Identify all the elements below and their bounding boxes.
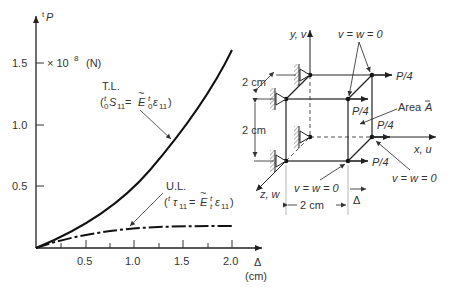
svg-text:): ) — [168, 96, 172, 108]
x-axis-units: (cm) — [245, 270, 267, 282]
dim-height: 2 cm — [242, 124, 266, 136]
svg-text:P/4: P/4 — [372, 156, 389, 168]
svg-text:~: ~ — [200, 187, 206, 199]
svg-text:=: = — [125, 96, 131, 108]
ul-pointer — [130, 193, 163, 226]
svg-text:ε: ε — [153, 96, 158, 108]
x-axis-label: Δ — [254, 256, 262, 268]
y-units: × 10 — [47, 57, 69, 69]
x-tick-0.5: 0.5 — [77, 255, 92, 267]
area-symbol: A — [424, 101, 432, 113]
bc-bottom-left-label: v = w = 0 — [294, 182, 340, 194]
y-units-n: (N) — [86, 57, 101, 69]
y-units-exp: 8 — [74, 54, 79, 63]
x-tick-1.5: 1.5 — [174, 255, 189, 267]
svg-text:t: t — [168, 194, 171, 203]
svg-text:P/4: P/4 — [352, 105, 369, 117]
y-tick-1.5: 1.5 — [12, 57, 27, 69]
tl-label: T.L. — [102, 80, 120, 92]
svg-text:ε: ε — [215, 196, 220, 208]
y-axis-label-diagram: y, v — [289, 28, 308, 40]
svg-text:11: 11 — [221, 202, 230, 211]
svg-text:11: 11 — [179, 202, 188, 211]
svg-text:t: t — [210, 202, 213, 211]
dim-width: 2 cm — [300, 199, 324, 211]
x-tick-2.0: 2.0 — [223, 255, 238, 267]
cube-diagram: y, v x, u z, w — [242, 28, 438, 215]
svg-text:P/4: P/4 — [396, 70, 413, 82]
svg-text:~: ~ — [138, 87, 144, 99]
dim-depth: 2 cm — [242, 76, 266, 88]
x-axis-label-diagram: x, u — [413, 143, 432, 155]
x-tick-1.0: 1.0 — [125, 255, 140, 267]
load-displacement-plot: 1.5 1.0 0.5 t P × 10 8 (N) 0.5 1.0 1.5 2… — [12, 10, 267, 282]
bc-bottom-right-label: v = w = 0 — [392, 172, 438, 184]
y-tick-0.5: 0.5 — [12, 180, 27, 192]
svg-text:P/4: P/4 — [377, 119, 394, 131]
tl-curve — [36, 50, 232, 248]
disp-label: Δ — [353, 194, 361, 206]
svg-text:τ: τ — [173, 196, 178, 208]
y-axis-label: P — [46, 11, 54, 23]
tl-pointer — [140, 110, 171, 139]
ul-label: U.L. — [166, 180, 186, 192]
load-labels: P/4 P/4 P/4 P/4 — [352, 70, 413, 168]
svg-text:=: = — [189, 196, 195, 208]
area-label: Area — [398, 101, 422, 113]
z-axis-label-diagram: z, w — [259, 188, 281, 200]
svg-text:11: 11 — [159, 102, 168, 111]
y-ticks — [36, 63, 44, 186]
load-arrows — [348, 75, 392, 161]
svg-text:): ) — [230, 196, 234, 208]
bc-top-label: v = w = 0 — [338, 28, 384, 40]
y-axis-label-sup: t — [42, 10, 45, 19]
svg-text:S: S — [109, 96, 117, 108]
y-tick-1.0: 1.0 — [12, 119, 27, 131]
x-ticks — [61, 240, 232, 248]
figure-canvas: 1.5 1.0 0.5 t P × 10 8 (N) 0.5 1.0 1.5 2… — [0, 0, 452, 291]
